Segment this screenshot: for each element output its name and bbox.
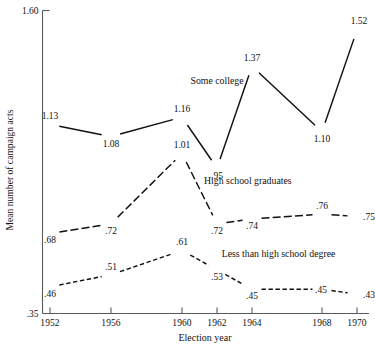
data-point-label: 1.13 [42, 111, 59, 121]
data-point-label: .45 [315, 285, 327, 295]
data-point-label: 1.10 [314, 134, 331, 144]
series-segment-1 [259, 73, 315, 125]
line-chart: 1.60.351952195619601962196419681970 1.13… [0, 0, 375, 347]
x-axis-tick-label: 1970 [347, 318, 367, 328]
series-label-1: Some college [190, 75, 244, 86]
series-segment-2 [59, 225, 101, 232]
x-axis-tick-label: 1968 [312, 318, 332, 328]
data-point-label: 1.16 [174, 104, 191, 114]
data-point-label: 1.52 [351, 16, 368, 26]
series-segment-1 [120, 120, 173, 134]
series-segment-2 [261, 215, 312, 219]
series-segment-1 [220, 75, 249, 159]
data-point-label: .53 [211, 272, 223, 282]
series-segment-1 [187, 125, 211, 160]
series-segment-3 [59, 277, 101, 285]
data-point-label: .45 [246, 291, 258, 301]
series-segment-1 [59, 126, 101, 134]
x-axis-tick-label: 1952 [40, 318, 60, 328]
series-segment-3 [190, 255, 208, 265]
series-segment-2 [331, 215, 347, 216]
y-axis-title: Mean number of campaign acts [4, 109, 15, 230]
x-axis-tick-label: 1960 [172, 318, 192, 328]
data-point-label: .61 [176, 237, 188, 247]
series-segment-2 [226, 220, 242, 222]
series-segment-3 [120, 254, 173, 272]
data-point-label: 1.37 [244, 53, 261, 63]
data-point-label: .43 [363, 290, 375, 300]
y-axis-tick-label: .35 [27, 309, 39, 319]
series-label-2: High school graduates [204, 175, 292, 186]
data-point-label: .75 [363, 212, 375, 222]
y-axis-tick-label: 1.60 [22, 6, 39, 16]
series-segment-2 [118, 160, 176, 217]
series-segment-1 [325, 39, 354, 123]
data-point-label: .46 [44, 289, 56, 299]
x-axis-title: Election year [178, 332, 232, 343]
chart-container: 1.60.351952195619601962196419681970 1.13… [0, 0, 375, 347]
data-point-label: .51 [105, 262, 117, 272]
x-axis-tick-label: 1964 [242, 318, 262, 328]
series-segment-3 [225, 274, 243, 284]
data-point-label: .72 [105, 226, 117, 236]
x-axis-tick-label: 1962 [207, 318, 227, 328]
data-point-label: 1.01 [174, 140, 191, 150]
x-axis-tick-label: 1956 [101, 318, 121, 328]
series-label-3: Less than high school degree [222, 248, 336, 259]
data-point-label: .76 [316, 201, 328, 211]
data-point-label: 1.08 [103, 139, 120, 149]
data-point-label: .72 [211, 226, 223, 236]
series-segment-3 [331, 291, 347, 293]
chart-axes: 1.60.351952195619601962196419681970 [22, 6, 369, 328]
series-segment-2 [186, 162, 213, 215]
data-point-label: .74 [246, 221, 258, 231]
data-point-label: .68 [44, 235, 56, 245]
